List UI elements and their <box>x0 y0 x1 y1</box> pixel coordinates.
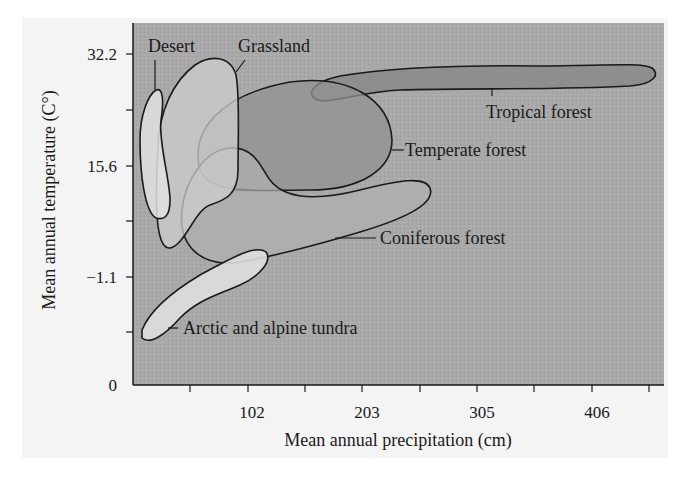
x-tick-label: 203 <box>354 403 380 422</box>
y-tick-label: 32.2 <box>87 45 117 64</box>
x-tick-label: 305 <box>469 403 495 422</box>
y-tick-label: 0 <box>109 376 118 395</box>
x-ticks <box>190 385 649 392</box>
y-ticks <box>126 54 133 332</box>
label-desert: Desert <box>148 36 195 56</box>
y-tick-label: −1.1 <box>86 268 117 287</box>
y-tick-label: 15.6 <box>87 157 117 176</box>
x-tick-label: 102 <box>239 403 265 422</box>
label-tropical-forest: Tropical forest <box>486 102 592 122</box>
biome-climate-diagram: 32.2 15.6 −1.1 0 102 203 305 406 Mean an… <box>0 0 690 494</box>
x-axis-title: Mean annual precipitation (cm) <box>284 430 511 451</box>
label-coniferous-forest: Coniferous forest <box>380 228 505 248</box>
x-tick-label: 406 <box>584 403 610 422</box>
label-grassland: Grassland <box>238 36 310 56</box>
label-temperate-forest: Temperate forest <box>405 140 526 160</box>
label-arctic-alpine-tundra: Arctic and alpine tundra <box>183 318 357 338</box>
y-axis-title: Mean annual temperature (C°) <box>39 90 60 310</box>
